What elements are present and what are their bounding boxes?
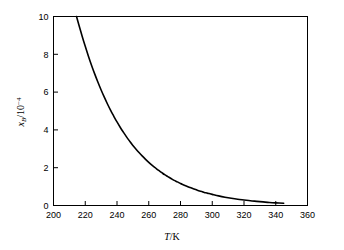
x-axis-title: T/K [164,231,180,242]
x-tick-label-240: 240 [109,210,124,220]
solubility-vs-temperature-chart: 200220240260280300320340360 0246810 T/K … [0,0,344,250]
x-tick-label-200: 200 [46,210,61,220]
x-tick-label-360: 360 [300,210,315,220]
x-tick-label-320: 320 [236,210,251,220]
y-tick-label-4: 4 [43,125,48,135]
x-tick-label-220: 220 [78,210,93,220]
x-tick-label-280: 280 [173,210,188,220]
y-tick-label-8: 8 [43,50,48,60]
y-tick-label-6: 6 [43,87,48,97]
y-tick-label-0: 0 [43,201,48,211]
y-tick-label-2: 2 [43,163,48,173]
x-tick-label-300: 300 [205,210,220,220]
y-tick-label-10: 10 [38,12,48,22]
chart-figure: 200220240260280300320340360 0246810 T/K … [0,0,344,250]
svg-text:T/K: T/K [164,231,180,242]
x-tick-label-340: 340 [268,210,283,220]
x-tick-label-260: 260 [141,210,156,220]
x-axis-tick-labels: 200220240260280300320340360 [46,210,315,220]
